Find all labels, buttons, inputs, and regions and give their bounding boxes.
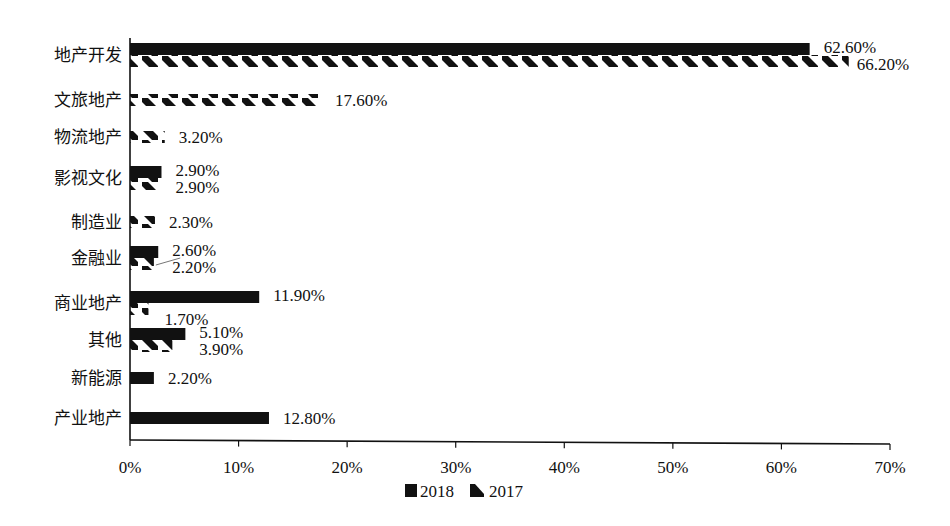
x-tick-label: 0% xyxy=(119,458,142,477)
bar-2017 xyxy=(130,258,154,270)
bar-2018 xyxy=(130,246,158,258)
category-label: 影视文化 xyxy=(54,168,122,188)
bar-2017 xyxy=(130,131,165,143)
legend-swatch-2017 xyxy=(470,484,484,497)
value-label-2018: 11.90% xyxy=(273,286,325,305)
category-label: 物流地产 xyxy=(54,127,122,147)
bar-2018 xyxy=(130,166,161,178)
bars xyxy=(130,43,849,424)
x-axis-line xyxy=(130,440,890,444)
legend-label-2017: 2017 xyxy=(489,482,524,501)
value-label-2017: 3.20% xyxy=(179,128,223,147)
category-label: 其他 xyxy=(88,330,122,350)
category-label: 制造业 xyxy=(71,212,122,232)
value-label-2017: 17.60% xyxy=(335,91,387,110)
value-label-2017: 2.30% xyxy=(169,213,213,232)
x-tick-label: 10% xyxy=(223,458,254,477)
bar-2018 xyxy=(130,291,259,303)
x-tick-label: 40% xyxy=(549,458,580,477)
bar-chart: 0%10%20%30%40%50%60%70% 地产开发文旅地产物流地产影视文化… xyxy=(0,0,950,526)
value-label-2017: 66.20% xyxy=(857,55,909,74)
category-label: 金融业 xyxy=(71,248,122,268)
category-label: 商业地产 xyxy=(54,293,122,313)
x-tick-label: 50% xyxy=(657,458,688,477)
x-tick-label: 20% xyxy=(332,458,363,477)
value-label-2017: 2.90% xyxy=(175,178,219,197)
bar-2018 xyxy=(130,328,185,340)
category-label: 产业地产 xyxy=(54,408,122,428)
category-label: 新能源 xyxy=(71,368,122,388)
category-label: 地产开发 xyxy=(54,45,122,65)
bar-2017 xyxy=(130,94,321,106)
bar-2017 xyxy=(130,303,148,315)
bar-2017 xyxy=(130,178,161,190)
value-label-2018: 2.20% xyxy=(168,369,212,388)
bar-2018 xyxy=(130,43,810,55)
legend-swatch-2018 xyxy=(405,484,417,497)
bar-2017 xyxy=(130,55,849,67)
value-label-2017: 2.20% xyxy=(172,258,216,277)
legend: 2018 2017 xyxy=(405,482,524,501)
bar-2018 xyxy=(130,412,269,424)
x-tick-label: 70% xyxy=(874,458,905,477)
value-label-2017: 3.90% xyxy=(199,340,243,359)
bar-2018 xyxy=(130,372,154,384)
category-label: 文旅地产 xyxy=(54,90,122,110)
bar-2017 xyxy=(130,340,172,352)
legend-label-2018: 2018 xyxy=(420,482,454,501)
x-tick-label: 60% xyxy=(766,458,797,477)
x-tick-label: 30% xyxy=(440,458,471,477)
bar-2017 xyxy=(130,216,155,228)
value-label-2018: 12.80% xyxy=(283,409,335,428)
